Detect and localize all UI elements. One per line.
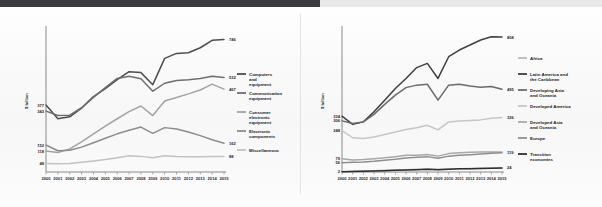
end-value-label: 495 xyxy=(507,87,515,92)
y-axis-title: $ billion xyxy=(24,93,29,109)
end-value-label: 746 xyxy=(229,37,237,42)
chart-panel-left: 2000200120022003200420052006200720082009… xyxy=(4,12,300,204)
x-tick-label: 2009 xyxy=(433,176,443,181)
end-value-label: 808 xyxy=(507,35,515,40)
x-tick-label: 2009 xyxy=(148,176,158,181)
x-tick-label: 2005 xyxy=(391,176,401,181)
legend-item: Developed America xyxy=(518,104,571,109)
x-tick-label: 2010 xyxy=(160,176,170,181)
x-tick-label: 2014 xyxy=(208,176,218,181)
legend-item: Europe xyxy=(518,136,546,141)
series-line-5 xyxy=(46,156,224,164)
x-tick-label: 2001 xyxy=(53,176,63,181)
end-value-label: 119 xyxy=(507,150,514,155)
end-value-label: 88 xyxy=(229,154,234,159)
x-tick-label: 2007 xyxy=(412,176,422,181)
legend-item: Consumerelectronicequipment xyxy=(237,110,272,125)
start-value-label: 306 xyxy=(333,118,341,123)
x-tick-label: 2013 xyxy=(476,176,486,181)
chart-panel-right: 2000200120022003200420052006200720082009… xyxy=(302,12,600,204)
x-tick-label: 2003 xyxy=(77,176,87,181)
start-value-label: 377 xyxy=(37,103,45,108)
end-value-label: 162 xyxy=(229,141,237,146)
x-tick-label: 2003 xyxy=(369,176,379,181)
x-tick-label: 2004 xyxy=(380,176,390,181)
x-tick-label: 2000 xyxy=(337,176,347,181)
end-value-label: 467 xyxy=(229,87,237,92)
legend-item: Developed Asiaand Oceania xyxy=(518,120,563,130)
x-tick-label: 2006 xyxy=(113,176,123,181)
legend-label: equipment xyxy=(249,120,272,125)
x-tick-label: 2002 xyxy=(359,176,369,181)
start-value-label: 2 xyxy=(338,169,341,174)
legend-label: economies xyxy=(530,157,553,162)
legend-label: and Oceania xyxy=(530,125,557,130)
header-bar-light xyxy=(320,0,602,7)
x-tick-label: 2004 xyxy=(89,176,99,181)
legend-label: equipment xyxy=(249,82,272,87)
series-line-2 xyxy=(342,37,502,125)
x-tick-label: 2002 xyxy=(65,176,75,181)
panel-divider xyxy=(300,14,301,194)
figure-page: 2000200120022003200420052006200720082009… xyxy=(0,0,602,207)
series-line-3 xyxy=(46,84,224,152)
x-tick-label: 2005 xyxy=(101,176,111,181)
legend-label: Europe xyxy=(530,136,546,141)
end-value-label: 326 xyxy=(507,115,515,120)
legend-label: Developed America xyxy=(530,104,571,109)
start-value-label: 56 xyxy=(335,160,340,165)
start-value-label: 152 xyxy=(37,143,45,148)
start-value-label: 248 xyxy=(333,128,341,133)
series-line-2 xyxy=(46,76,224,115)
legend-item: Transitioneconomies xyxy=(518,152,553,162)
line-chart-left: 2000200120022003200420052006200720082009… xyxy=(4,12,300,204)
x-tick-label: 2015 xyxy=(497,176,507,181)
end-value-label: 24 xyxy=(507,165,512,170)
start-value-label: 48 xyxy=(39,161,44,166)
legend-label: components xyxy=(249,134,276,139)
x-tick-label: 2015 xyxy=(219,176,229,181)
series-line-3 xyxy=(342,84,502,123)
start-value-label: 118 xyxy=(37,149,44,154)
x-tick-label: 2012 xyxy=(184,176,194,181)
x-tick-label: 2012 xyxy=(465,176,475,181)
legend-item: Latin America andthe Caribbean xyxy=(518,72,568,82)
x-tick-label: 2008 xyxy=(136,176,146,181)
x-tick-label: 2007 xyxy=(125,176,135,181)
start-value-label: 343 xyxy=(37,109,45,114)
legend-item: Africa xyxy=(518,56,543,61)
x-tick-label: 2011 xyxy=(172,176,182,181)
legend-label: the Caribbean xyxy=(530,77,560,82)
y-axis-title: $ billion xyxy=(320,93,325,109)
x-tick-label: 2001 xyxy=(348,176,358,181)
legend-label: equipment xyxy=(249,96,272,101)
legend-item: Miscellaneous xyxy=(237,148,280,153)
legend-item: Computersandequipment xyxy=(237,72,273,87)
legend-item: Communicationequipment xyxy=(237,91,282,101)
legend-item: Electroniccomponents xyxy=(237,129,276,139)
header-bar-dark xyxy=(0,0,320,7)
legend-label: and Oceania xyxy=(530,93,557,98)
x-tick-label: 2000 xyxy=(41,176,51,181)
x-tick-label: 2008 xyxy=(423,176,433,181)
x-tick-label: 2011 xyxy=(455,176,465,181)
x-tick-label: 2006 xyxy=(401,176,411,181)
x-tick-label: 2013 xyxy=(196,176,206,181)
legend-label: Miscellaneous xyxy=(249,148,280,153)
x-tick-label: 2010 xyxy=(444,176,454,181)
line-chart-right: 2000200120022003200420052006200720082009… xyxy=(302,12,600,204)
legend-label: Africa xyxy=(530,56,543,61)
x-tick-label: 2014 xyxy=(487,176,497,181)
end-value-label: 532 xyxy=(229,75,237,80)
series-line-5 xyxy=(342,152,502,160)
legend-item: Developing Asiaand Oceania xyxy=(518,88,565,98)
